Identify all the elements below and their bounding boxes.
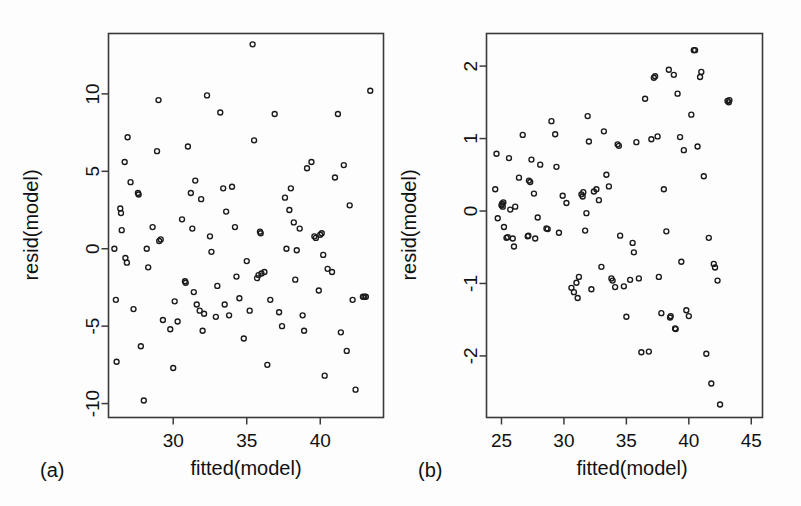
data-point [585,114,590,119]
data-point [112,246,117,251]
data-point [576,274,581,279]
panel-a-ticks-layer [102,94,321,425]
data-point [232,225,237,230]
data-point [686,314,691,319]
data-point [649,137,654,142]
panel-a-ticklabels-layer: 303540-10-50510 [82,83,331,450]
data-point [193,178,198,183]
data-point [316,288,321,293]
data-point [513,204,518,209]
data-point [122,160,127,165]
data-point [698,74,703,79]
data-point [277,310,282,315]
data-point [675,91,680,96]
data-point [538,162,543,167]
panel-a-points-layer [112,42,373,403]
data-point [309,160,314,165]
data-point [180,217,185,222]
data-point [160,317,165,322]
data-point [234,274,239,279]
data-point [224,209,229,214]
data-point [709,381,714,386]
data-point [209,249,214,254]
panel-b-xaxis-title: fitted(model) [576,457,687,479]
data-point [171,365,176,370]
x-tick-label: 30 [553,430,574,451]
x-tick-label: 40 [678,430,699,451]
data-point [678,135,683,140]
data-point [506,156,511,161]
data-point [643,96,648,101]
data-point [172,299,177,304]
data-point [205,93,210,98]
data-point [222,302,227,307]
data-point [191,290,196,295]
data-point [247,308,252,313]
data-point [684,308,689,313]
y-tick-label: 0 [82,243,103,254]
data-point [575,295,580,300]
data-point [589,287,594,292]
data-point [294,248,299,253]
data-point [586,139,591,144]
data-point [655,134,660,139]
figure-root: 303540-10-50510 fitted(model) resid(mode… [0,0,801,506]
x-tick-label: 30 [163,430,184,451]
data-point [639,350,644,355]
data-point [287,208,292,213]
data-point [533,236,538,241]
data-point [715,278,720,283]
data-point [144,246,149,251]
data-point [131,307,136,312]
panel-b-ticks-layer [480,66,752,424]
data-point [128,180,133,185]
data-point [156,98,161,103]
data-point [119,228,124,233]
data-point [252,138,257,143]
scatter-panel-a: 303540-10-50510 fitted(model) resid(mode… [0,0,400,506]
data-point [202,311,207,316]
data-point [516,175,521,180]
data-point [237,296,242,301]
data-point [244,259,249,264]
data-point [535,215,540,220]
data-point [671,72,676,77]
y-tick-label: 2 [460,61,481,72]
data-point [353,387,358,392]
data-point [661,187,666,192]
data-point [556,230,561,235]
data-point [322,373,327,378]
data-point [508,207,513,212]
data-point [302,328,307,333]
data-point [341,163,346,168]
data-point [718,402,723,407]
panel-b-label: (b) [418,459,442,481]
data-point [288,186,293,191]
data-point [501,224,506,229]
data-point [666,67,671,72]
panel-b-ticklabels-layer: 2530354045-2-1012 [460,61,762,451]
y-tick-label: 0 [460,206,481,217]
y-tick-label: -1 [460,275,481,292]
data-point [190,226,195,231]
data-point [529,157,534,162]
data-point [332,175,337,180]
data-point [150,225,155,230]
data-point [701,174,706,179]
y-tick-label: -10 [82,390,103,417]
data-point [659,311,664,316]
data-point [114,359,119,364]
data-point [613,285,618,290]
panel-a-svg: 303540-10-50510 fitted(model) resid(mode… [0,0,400,506]
data-point [293,277,298,282]
data-point [241,336,246,341]
data-point [624,314,629,319]
data-point [634,140,639,145]
x-tick-label: 40 [310,430,331,451]
data-point [510,236,515,241]
data-point [511,244,516,249]
data-point [679,259,684,264]
data-point [168,327,173,332]
data-point [282,195,287,200]
data-point [618,233,623,238]
